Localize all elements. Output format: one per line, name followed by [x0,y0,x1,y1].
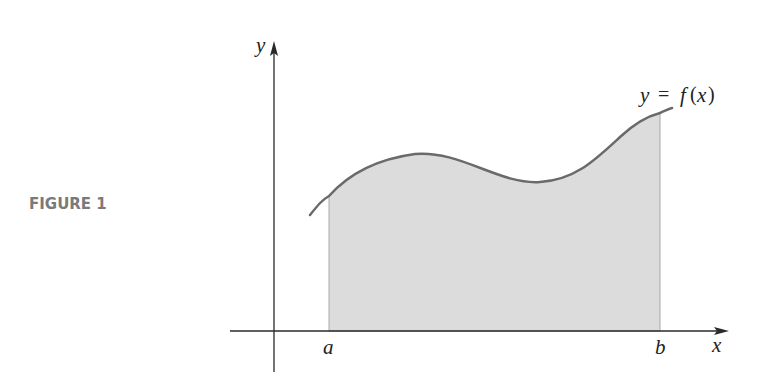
curve-label-equals: = [658,83,669,105]
curve-label-y: y [638,83,650,107]
tick-label-b: b [655,335,666,359]
curve-label-f: f [680,83,689,107]
curve-label-close-paren: ) [708,83,715,106]
y-axis-label: y [254,33,266,57]
curve-label: y = f ( x ) [638,83,715,107]
curve-label-x: x [696,83,707,107]
area-under-curve-diagram: y x a b y = f ( x ) [0,0,767,387]
curve-label-open-paren: ( [690,83,697,106]
x-axis-label: x [711,333,722,357]
tick-label-a: a [323,335,334,359]
